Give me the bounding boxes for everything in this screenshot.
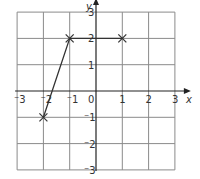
y-tick-label: ⁻1 bbox=[84, 112, 96, 123]
x-axis-label: x bbox=[185, 94, 192, 105]
x-tick-label: 0 bbox=[88, 94, 94, 105]
axes bbox=[15, 0, 191, 171]
y-tick-label: ⁻2 bbox=[84, 139, 96, 150]
y-tick-label: 3 bbox=[88, 7, 94, 18]
x-tick-label: 1 bbox=[119, 94, 125, 105]
y-tick-label: 1 bbox=[88, 60, 94, 71]
tick-labels: xy⁻3⁻2⁻10123321⁻1⁻2⁻3 bbox=[14, 1, 192, 176]
series-line bbox=[43, 38, 122, 117]
y-axis-arrow-icon bbox=[93, 0, 99, 5]
x-tick-label: ⁻1 bbox=[67, 94, 79, 105]
x-tick-label: 3 bbox=[172, 94, 178, 105]
x-tick-label: 2 bbox=[146, 94, 152, 105]
data-series bbox=[39, 34, 126, 121]
y-tick-label: ⁻3 bbox=[84, 165, 96, 176]
coordinate-grid-chart: xy⁻3⁻2⁻10123321⁻1⁻2⁻3 bbox=[0, 0, 200, 179]
x-tick-label: ⁻3 bbox=[14, 94, 26, 105]
